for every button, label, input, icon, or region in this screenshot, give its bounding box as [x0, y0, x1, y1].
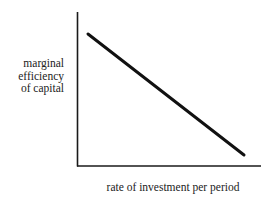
y-axis-label: marginal efficiency of capital [4, 57, 64, 95]
y-axis-label-line-3: of capital [4, 82, 64, 95]
x-axis-label: rate of investment per period [88, 181, 258, 193]
y-axis-label-line-2: efficiency [4, 70, 64, 83]
mec-curve [88, 34, 244, 155]
mec-diagram [0, 0, 273, 199]
y-axis-label-line-1: marginal [4, 57, 64, 70]
